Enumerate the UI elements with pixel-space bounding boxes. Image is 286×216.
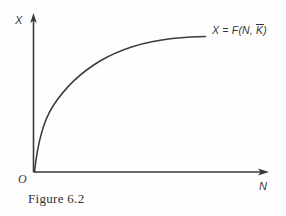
origin-label: O bbox=[18, 173, 27, 185]
figure-container: X N O X = F(N, K) Figure 6.2 bbox=[0, 0, 286, 216]
production-function-curve bbox=[35, 36, 206, 172]
curve-equation-prefix: X = F(N, bbox=[212, 24, 256, 36]
y-axis-label: X bbox=[15, 15, 22, 26]
axis-group bbox=[30, 13, 269, 175]
k-bar-symbol: K bbox=[256, 25, 263, 36]
curve-equation-suffix: ) bbox=[263, 24, 267, 36]
figure-caption: Figure 6.2 bbox=[28, 192, 84, 205]
curve-equation-label: X = F(N, K) bbox=[212, 25, 267, 36]
x-axis-label: N bbox=[259, 181, 267, 192]
